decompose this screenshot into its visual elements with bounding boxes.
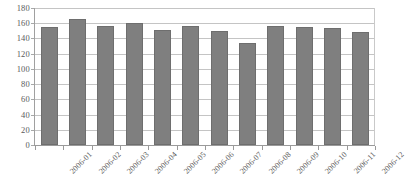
plot-area — [35, 8, 375, 145]
bar — [296, 27, 313, 145]
gridline — [35, 23, 375, 24]
bar — [97, 26, 114, 145]
x-tick-label: 2006-07 — [238, 150, 264, 176]
x-tick-mark — [233, 146, 234, 150]
x-tick-mark — [92, 146, 93, 150]
y-tick-label: 120 — [0, 49, 30, 58]
x-tick-mark — [205, 146, 206, 150]
x-tick-mark — [63, 146, 64, 150]
bar — [324, 28, 341, 145]
y-tick-label: 0 — [0, 141, 30, 150]
x-tick-label: 2006-02 — [97, 150, 123, 176]
y-tick-label: 160 — [0, 19, 30, 28]
x-tick-label: 2006-09 — [295, 150, 321, 176]
bar — [154, 30, 171, 145]
bar — [352, 32, 369, 145]
x-tick-label: 2006-08 — [267, 150, 293, 176]
x-tick-mark — [148, 146, 149, 150]
bar — [267, 26, 284, 145]
x-tick-mark — [290, 146, 291, 150]
y-tick-label: 100 — [0, 65, 30, 74]
bar — [182, 26, 199, 145]
y-tick-label: 60 — [0, 95, 30, 104]
x-tick-label: 2006-04 — [153, 150, 179, 176]
bar — [239, 43, 256, 145]
bar — [211, 31, 228, 145]
bar — [41, 27, 58, 145]
x-tick-mark — [262, 146, 263, 150]
gridline — [35, 8, 375, 9]
x-tick-label: 2006-05 — [182, 150, 208, 176]
x-tick-mark — [35, 146, 36, 150]
bar — [69, 19, 86, 145]
y-tick-label: 140 — [0, 34, 30, 43]
x-tick-mark — [318, 146, 319, 150]
y-tick-label: 20 — [0, 126, 30, 135]
x-tick-label: 2006-06 — [210, 150, 236, 176]
x-tick-mark — [375, 146, 376, 150]
x-tick-label: 2006-12 — [380, 150, 406, 176]
y-axis: 020406080100120140160180 — [0, 8, 30, 145]
y-tick-label: 180 — [0, 4, 30, 13]
x-tick-mark — [347, 146, 348, 150]
x-tick-mark — [120, 146, 121, 150]
x-axis: 2006-012006-022006-032006-042006-052006-… — [35, 150, 375, 195]
y-tick-label: 40 — [0, 110, 30, 119]
y-tick-label: 80 — [0, 80, 30, 89]
x-tick-label: 2006-01 — [68, 150, 94, 176]
bar — [126, 23, 143, 145]
x-tick-mark — [177, 146, 178, 150]
x-tick-label: 2006-03 — [125, 150, 151, 176]
x-tick-label: 2006-11 — [351, 150, 377, 176]
x-tick-label: 2006-10 — [323, 150, 349, 176]
plot-border-right — [374, 8, 375, 145]
